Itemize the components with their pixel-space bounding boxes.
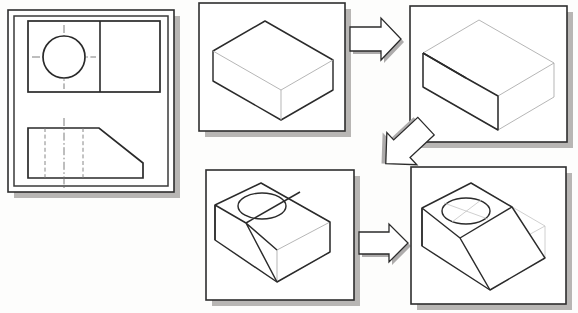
step-4-panel[interactable]	[0, 0, 578, 313]
figure-canvas: Isometric construction sequence of a cha…	[0, 0, 578, 313]
